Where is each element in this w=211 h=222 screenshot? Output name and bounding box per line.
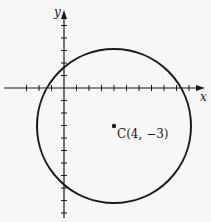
y-axis-arrow-icon: [61, 10, 67, 19]
center-label: C(4, −3): [117, 127, 169, 141]
circle-diagram: x y C(4, −3): [0, 0, 211, 222]
x-axis-label: x: [200, 90, 207, 104]
center-point: [112, 124, 116, 128]
y-axis-label: y: [53, 5, 61, 19]
